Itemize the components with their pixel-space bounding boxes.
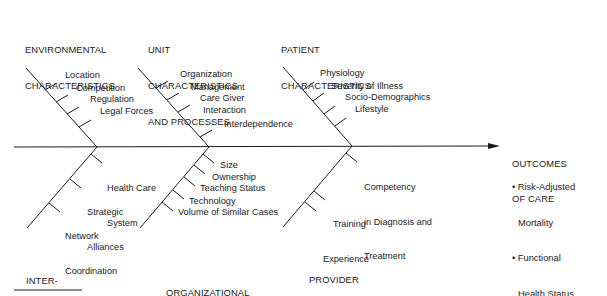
outcome-item: • Risk-Adjusted xyxy=(512,182,588,194)
cause-organization: Organization xyxy=(180,69,232,81)
heading-line: PATIENT xyxy=(281,44,371,56)
outcome-item: Health Status xyxy=(512,289,588,296)
cause-care-giver: Care Giver xyxy=(200,93,244,105)
cause-lifestyle: Lifestyle xyxy=(355,104,389,116)
cause-interdependence: Interdependence xyxy=(224,119,293,131)
outcome-list: • Risk-Adjusted Mortality • Functional H… xyxy=(512,158,588,296)
cause-regulation: Regulation xyxy=(90,94,134,106)
heading-line: UNIT xyxy=(148,44,238,56)
heading-organizational: ORGANIZATIONAL CHARACTERISTICS xyxy=(166,263,256,296)
outcome-item: • Functional xyxy=(512,253,588,265)
cause-volume-of-similar-cases: Volume of Similar Cases xyxy=(178,207,278,219)
heading-line: PROVIDER xyxy=(309,274,399,286)
spine-line xyxy=(14,146,488,147)
outcome-item: Mortality xyxy=(512,218,588,230)
cause-line: in Diagnosis and xyxy=(364,217,432,229)
cause-management: Management xyxy=(191,82,245,94)
cause-line: Competency xyxy=(364,182,432,194)
cause-legal-forces: Legal Forces xyxy=(100,106,153,118)
cause-technology: Technology xyxy=(189,196,235,208)
cause-teaching-status: Teaching Status xyxy=(200,183,265,195)
cause-interaction: Interaction xyxy=(203,105,246,117)
cause-line: Training xyxy=(323,219,369,231)
arrowhead-icon xyxy=(488,143,500,149)
cause-ownership: Ownership xyxy=(212,172,256,184)
cause-socio-demographics: Socio-Demographics xyxy=(345,92,430,104)
heading-line: ENVIRONMENTAL xyxy=(25,44,115,56)
heading-line: ORGANIZATIONAL xyxy=(166,287,256,296)
heading-inter-organizational: INTER- ORGANIZATIONAL CHARACTERISTICS xyxy=(26,251,116,296)
heading-line: INTER- xyxy=(26,275,116,287)
cause-location: Location xyxy=(65,70,100,82)
cause-competition: Competition xyxy=(76,83,125,95)
cause-severity-of-illness: Severity of Illness xyxy=(331,81,403,93)
cause-size: Size xyxy=(220,160,238,172)
heading-provider: PROVIDER CHARACTERISTICS AND PROCESSES xyxy=(309,250,399,296)
cause-line: Network xyxy=(65,231,117,243)
cause-physiology: Physiology xyxy=(320,68,364,80)
